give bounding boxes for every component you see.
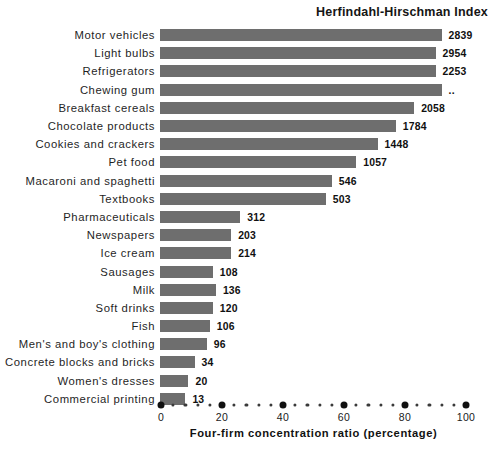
- bar-category-label: Cookies and crackers: [35, 138, 155, 150]
- axis-minor-tick-dot: [172, 403, 175, 406]
- bar-value-label: 1448: [385, 139, 409, 150]
- bar: [160, 138, 378, 150]
- bar-row: Pet food1057: [0, 153, 496, 171]
- bar-track: 34: [160, 356, 496, 368]
- bar-value-label: 106: [217, 321, 235, 332]
- bar-row: Chewing gum..: [0, 81, 496, 99]
- axis-minor-tick-dot: [257, 403, 260, 406]
- bar-category-label: Breakfast cereals: [58, 102, 155, 114]
- bar-track: 96: [160, 338, 496, 350]
- bar-category-label: Fish: [131, 320, 155, 332]
- x-axis-tick-label: 100: [457, 411, 475, 423]
- x-axis-tick-label: 20: [216, 411, 228, 423]
- bar-row: Concrete blocks and bricks34: [0, 353, 496, 371]
- bar: [160, 320, 210, 332]
- bar-row: Light bulbs2954: [0, 44, 496, 62]
- axis-minor-tick-dot: [245, 403, 248, 406]
- x-axis-tick-label: 80: [399, 411, 411, 423]
- bar-category-label: Macaroni and spaghetti: [25, 175, 155, 187]
- bar-value-label: 546: [339, 175, 357, 186]
- bar-track: 20: [160, 375, 496, 387]
- bar-value-label: 312: [247, 211, 265, 222]
- axis-minor-tick-dot: [428, 403, 431, 406]
- bar-value-label: 108: [220, 266, 238, 277]
- bar-value-label: 136: [223, 284, 241, 295]
- axis-minor-tick-dot: [233, 403, 236, 406]
- bar: [160, 175, 332, 187]
- bar-track: 1784: [160, 120, 496, 132]
- bar-row: Breakfast cereals2058: [0, 99, 496, 117]
- axis-minor-tick-dot: [269, 403, 272, 406]
- axis-major-tick-dot: [341, 402, 348, 409]
- axis-minor-tick-dot: [379, 403, 382, 406]
- bar-value-label: 203: [238, 230, 256, 241]
- axis-minor-tick-dot: [294, 403, 297, 406]
- bar-track: 312: [160, 211, 496, 223]
- bar-value-label: 503: [333, 193, 351, 204]
- bar: [160, 102, 414, 114]
- bar-category-label: Chocolate products: [48, 120, 155, 132]
- x-axis-tick-dots: [0, 398, 496, 412]
- bar-value-label: 214: [238, 248, 256, 259]
- axis-minor-tick-dot: [440, 403, 443, 406]
- bar-track: 108: [160, 266, 496, 278]
- bar: [160, 47, 436, 59]
- bar: [160, 266, 213, 278]
- bar-value-label: 20: [195, 375, 207, 386]
- bar-row: Fish106: [0, 317, 496, 335]
- bar-value-label: 2839: [449, 30, 473, 41]
- bar-category-label: Women's dresses: [58, 375, 155, 387]
- bar-row: Sausages108: [0, 262, 496, 280]
- bar: [160, 284, 216, 296]
- axis-major-tick-dot: [280, 402, 287, 409]
- x-axis-tick-label: 0: [158, 411, 164, 423]
- bar-row: Ice cream214: [0, 244, 496, 262]
- bar-track: 120: [160, 302, 496, 314]
- bar-row: Soft drinks120: [0, 299, 496, 317]
- bar-chart: Herfindahl-Hirschman Index Motor vehicle…: [0, 0, 496, 454]
- axis-minor-tick-dot: [184, 403, 187, 406]
- bar-row: Cookies and crackers1448: [0, 135, 496, 153]
- bar-track: 1057: [160, 156, 496, 168]
- axis-minor-tick-dot: [306, 403, 309, 406]
- chart-title: Herfindahl-Hirschman Index: [316, 5, 488, 19]
- axis-minor-tick-dot: [330, 403, 333, 406]
- bar-value-label: 34: [202, 357, 214, 368]
- axis-major-tick-dot: [158, 402, 165, 409]
- bar: [160, 302, 213, 314]
- axis-major-tick-dot: [219, 402, 226, 409]
- bar-row: Refrigerators2253: [0, 62, 496, 80]
- bar-track: 2253: [160, 65, 496, 77]
- bar-row: Chocolate products1784: [0, 117, 496, 135]
- bar: [160, 211, 240, 223]
- bar: [160, 65, 436, 77]
- bar-category-label: Pet food: [109, 156, 155, 168]
- bar-category-label: Chewing gum: [80, 84, 155, 96]
- axis-minor-tick-dot: [318, 403, 321, 406]
- bar-row: Motor vehicles2839: [0, 26, 496, 44]
- bar-row: Milk136: [0, 281, 496, 299]
- bar-value-label: 2058: [421, 102, 445, 113]
- bar: [160, 247, 231, 259]
- bar-value-label: 2954: [443, 48, 467, 59]
- bar-row: Pharmaceuticals312: [0, 208, 496, 226]
- bar-category-label: Milk: [133, 284, 155, 296]
- bar-category-label: Light bulbs: [94, 47, 155, 59]
- bar: [160, 338, 207, 350]
- bar-track: 214: [160, 247, 496, 259]
- bar-track: ..: [160, 84, 496, 96]
- bar-track: 503: [160, 193, 496, 205]
- axis-minor-tick-dot: [208, 403, 211, 406]
- bar-value-label: 2253: [443, 66, 467, 77]
- bar-row: Macaroni and spaghetti546: [0, 172, 496, 190]
- bar-category-label: Sausages: [100, 266, 155, 278]
- bar-track: 2839: [160, 29, 496, 41]
- bar: [160, 193, 326, 205]
- x-axis-tick-label: 60: [338, 411, 350, 423]
- bar-category-label: Pharmaceuticals: [63, 211, 155, 223]
- bar-row: Textbooks503: [0, 190, 496, 208]
- bar-row: Men's and boy's clothing96: [0, 335, 496, 353]
- axis-major-tick-dot: [463, 402, 470, 409]
- axis-minor-tick-dot: [452, 403, 455, 406]
- axis-minor-tick-dot: [196, 403, 199, 406]
